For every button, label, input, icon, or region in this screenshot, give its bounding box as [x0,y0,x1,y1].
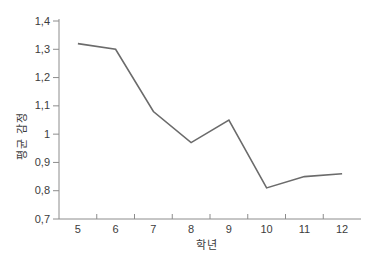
x-tick-label: 9 [226,223,232,235]
y-tick-label: 1,2 [35,71,50,83]
y-tick-label: 0,8 [35,184,50,196]
y-axis-title: 평균 감정 [13,112,29,160]
figure: 1,41,31,21,110,90,80,756789101112 평균 감정 … [0,0,387,267]
x-tick-label: 12 [336,223,348,235]
y-tick-label: 0,9 [35,156,50,168]
y-tick-label: 1 [44,128,50,140]
x-tick-label: 7 [150,223,156,235]
x-tick-label: 6 [113,223,119,235]
x-axis-title: 학년 [196,236,218,252]
y-tick-label: 1,1 [35,99,50,111]
y-tick-label: 0,7 [35,213,50,225]
x-tick-label: 8 [188,223,194,235]
x-tick-label: 10 [261,223,273,235]
y-tick-label: 1,3 [35,43,50,55]
line-chart: 1,41,31,21,110,90,80,756789101112 [0,0,387,267]
x-tick-label: 11 [299,223,310,235]
y-tick-label: 1,4 [35,15,50,27]
data-line [78,44,342,188]
x-tick-label: 5 [75,223,81,235]
